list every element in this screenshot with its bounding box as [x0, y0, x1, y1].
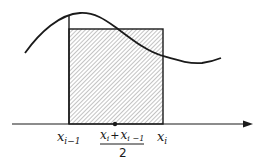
label-x-i-minus-1: xi−1 — [57, 129, 81, 146]
label-midpoint-numerator: xi+xi −1 — [100, 128, 144, 143]
axis-arrow-icon — [243, 121, 253, 128]
label-x-i: xi — [157, 129, 167, 146]
label-midpoint-denominator: 2 — [119, 146, 127, 160]
midpoint-dot — [113, 122, 117, 126]
midpoint-rule-diagram: xi−1 xi+xi −1 2 xi — [0, 0, 262, 165]
hatched-rectangle — [69, 29, 163, 124]
